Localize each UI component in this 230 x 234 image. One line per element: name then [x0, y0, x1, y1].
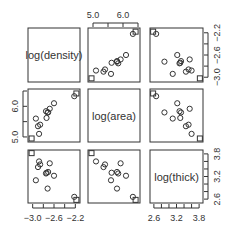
diagonal-panel-area: log(area)	[88, 89, 140, 142]
svg-text:3.8: 3.8	[193, 213, 206, 223]
svg-text:−2.2: −2.2	[66, 213, 84, 223]
svg-text:−2.6: −2.6	[45, 213, 63, 223]
diagonal-panel-thick: log(thick)	[150, 150, 203, 203]
svg-text:3.8: 3.8	[212, 148, 222, 161]
svg-text:6.0: 6.0	[117, 10, 130, 20]
svg-text:−3.0: −3.0	[212, 68, 222, 86]
svg-text:5.0: 5.0	[87, 10, 100, 20]
svg-text:3.2: 3.2	[170, 213, 183, 223]
panel-density-vs-thick	[150, 28, 203, 82]
svg-text:−3.0: −3.0	[24, 213, 42, 223]
variable-label: log(density)	[26, 49, 83, 61]
scatterplot-matrix: log(density)log(area)log(thick)5.06.0−3.…	[0, 0, 230, 234]
svg-text:2.6: 2.6	[148, 213, 161, 223]
svg-text:5.0: 5.0	[10, 131, 20, 144]
panel-thick-vs-area	[88, 150, 140, 203]
diagonal-panel-density: log(density)	[26, 28, 83, 82]
svg-text:2.6: 2.6	[212, 193, 222, 206]
svg-text:3.2: 3.2	[212, 170, 222, 183]
panel-area-vs-thick	[150, 89, 203, 142]
panel-density-vs-area	[88, 28, 140, 82]
panel-area-vs-density	[28, 89, 80, 142]
svg-text:−2.6: −2.6	[212, 46, 222, 64]
svg-text:6.0: 6.0	[10, 100, 20, 113]
variable-label: log(thick)	[154, 171, 199, 183]
panel-thick-vs-density	[28, 150, 80, 203]
svg-text:−2.2: −2.2	[212, 24, 222, 42]
variable-label: log(area)	[92, 110, 136, 122]
